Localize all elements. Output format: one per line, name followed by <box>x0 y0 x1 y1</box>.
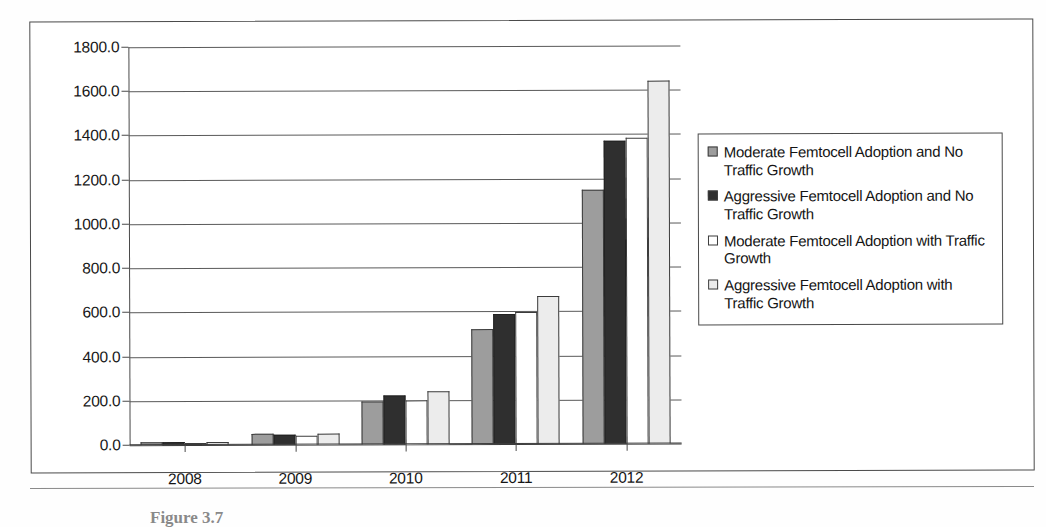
x-axis-category-labels: 20082009201020112012 <box>130 469 682 489</box>
x-axis-tickmark <box>516 444 517 451</box>
legend-swatch-icon <box>708 191 718 201</box>
chart-legend: Moderate Femtocell Adoption and No Traff… <box>698 133 1004 325</box>
bar[interactable] <box>647 81 670 444</box>
legend-item-label: Aggressive Femtocell Adoption and No Tra… <box>724 187 994 223</box>
x-axis-label-2008: 2008 <box>130 470 240 488</box>
bar-group-2010 <box>349 46 461 444</box>
bar[interactable] <box>516 312 538 444</box>
y-axis-tick-label: 400.0 <box>83 348 130 366</box>
chart-frame: 1800.01600.01400.01200.01000.0800.0600.0… <box>29 18 1034 473</box>
x-axis-label-2011: 2011 <box>461 469 571 487</box>
bar[interactable] <box>427 391 449 444</box>
bar[interactable] <box>625 137 648 443</box>
legend-item[interactable]: Aggressive Femtocell Adoption and No Tra… <box>708 187 994 223</box>
legend-item-label: Moderate Femtocell Adoption and No Traff… <box>724 143 994 179</box>
x-axis-tickmark <box>626 444 627 451</box>
bar[interactable] <box>494 314 516 445</box>
bar[interactable] <box>383 396 405 445</box>
bar[interactable] <box>603 141 626 444</box>
legend-item-label: Aggressive Femtocell Adoption with Traff… <box>724 276 994 312</box>
bar[interactable] <box>362 401 384 444</box>
bar-group-2008 <box>128 47 240 445</box>
x-axis-label-2012: 2012 <box>571 469 681 487</box>
x-axis-label-2009: 2009 <box>240 470 350 488</box>
y-axis-tick-label: 0.0 <box>100 436 130 454</box>
bar[interactable] <box>405 400 427 444</box>
legend-item[interactable]: Moderate Femtocell Adoption with Traffic… <box>708 231 994 267</box>
bar-group-2011 <box>460 46 572 444</box>
legend-item[interactable]: Aggressive Femtocell Adoption with Traff… <box>708 276 994 312</box>
figure-caption: Figure 3.7 <box>150 508 850 527</box>
plot-area: 1800.01600.01400.01200.01000.0800.0600.0… <box>128 46 681 446</box>
x-axis-label-2010: 2010 <box>351 469 461 487</box>
legend-swatch-icon <box>708 235 718 245</box>
legend-swatch-icon <box>708 146 718 156</box>
legend-item[interactable]: Moderate Femtocell Adoption and No Traff… <box>708 143 994 179</box>
y-axis-tick-label: 200.0 <box>83 392 130 410</box>
y-axis-tick-label: 1600.0 <box>73 82 128 100</box>
y-axis-tick-label: 1400.0 <box>73 127 128 145</box>
bar[interactable] <box>472 329 494 444</box>
bar-group-2012 <box>570 46 682 444</box>
bars-layer <box>128 46 681 446</box>
bar-group-2009 <box>239 47 351 445</box>
x-axis-tickmark <box>406 444 407 451</box>
y-axis-tick-label: 600.0 <box>82 304 129 322</box>
y-axis-tick-label: 800.0 <box>82 259 129 277</box>
y-axis-tick-label: 1800.0 <box>73 38 128 56</box>
y-axis-tick-label: 1000.0 <box>74 215 129 233</box>
legend-item-label: Moderate Femtocell Adoption with Traffic… <box>724 231 994 267</box>
x-axis-tickmark <box>295 445 296 452</box>
x-axis-tickmark <box>185 445 186 452</box>
bar[interactable] <box>582 190 605 444</box>
bar[interactable] <box>538 296 560 444</box>
scanned-page: 1800.01600.01400.01200.01000.0800.0600.0… <box>0 0 1046 527</box>
y-axis-tick-label: 1200.0 <box>74 171 129 189</box>
legend-swatch-icon <box>708 280 718 290</box>
